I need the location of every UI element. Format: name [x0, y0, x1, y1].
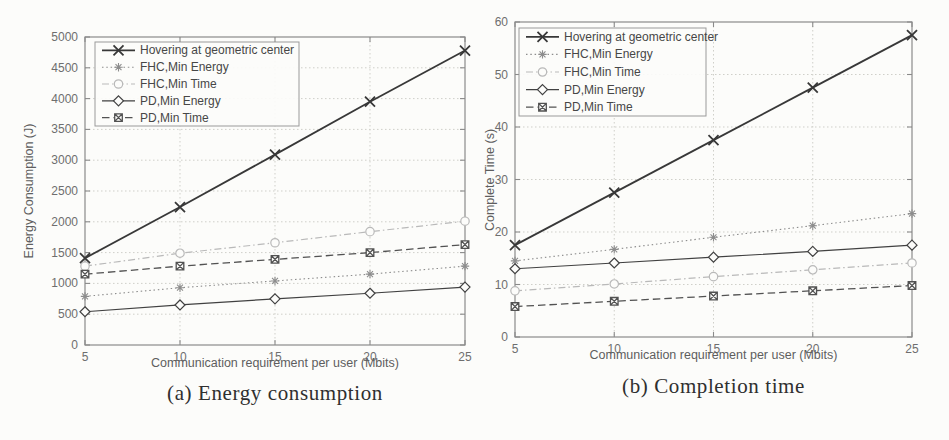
circle-marker-icon — [709, 272, 717, 280]
diamond-marker-icon — [808, 246, 818, 256]
square-x-marker-icon — [908, 282, 916, 290]
x-axis-label: Communication requirement per user (Mbit… — [515, 348, 912, 362]
asterisk-marker-icon — [81, 292, 89, 300]
y-tick-label: 0 — [501, 330, 508, 344]
y-tick-label: 1000 — [51, 276, 78, 290]
asterisk-marker-icon — [908, 209, 916, 217]
asterisk-marker-icon — [176, 284, 184, 292]
circle-marker-icon — [610, 280, 618, 288]
legend-label: FHC,Min Time — [140, 77, 217, 91]
circle-marker-icon — [461, 217, 469, 225]
square-x-marker-icon — [539, 103, 547, 111]
energy-consumption-panel: 5101520250500100015002000250030003500400… — [0, 0, 475, 440]
diamond-marker-icon — [270, 294, 280, 304]
y-tick-label: 500 — [58, 307, 78, 321]
asterisk-marker-icon — [461, 262, 469, 270]
y-tick-label: 3000 — [51, 153, 78, 167]
asterisk-marker-icon — [271, 277, 279, 285]
square-x-marker-icon — [271, 256, 279, 264]
y-tick-label: 3500 — [51, 122, 78, 136]
diamond-marker-icon — [907, 240, 917, 250]
x-marker-icon — [609, 188, 619, 198]
y-tick-label: 10 — [495, 278, 509, 292]
square-x-marker-icon — [809, 287, 817, 295]
legend-label: PD,Min Time — [140, 111, 209, 125]
legend-label: FHC,Min Energy — [140, 60, 229, 74]
series-3 — [510, 240, 917, 274]
square-x-marker-icon — [81, 270, 89, 278]
series-3 — [80, 282, 470, 317]
asterisk-marker-icon — [610, 245, 618, 253]
asterisk-marker-icon — [538, 50, 546, 58]
circle-marker-icon — [81, 262, 89, 270]
y-axis-label: Complete Time (s) — [483, 129, 497, 231]
square-x-marker-icon — [366, 249, 374, 257]
asterisk-marker-icon — [809, 222, 817, 230]
circle-marker-icon — [511, 287, 519, 295]
legend-label: FHC,Min Energy — [564, 47, 653, 61]
diamond-marker-icon — [80, 307, 90, 317]
circle-marker-icon — [366, 227, 374, 235]
legend-label: PD,Min Time — [564, 100, 633, 114]
y-tick-label: 60 — [495, 15, 509, 29]
circle-marker-icon — [809, 266, 817, 274]
y-tick-label: 2500 — [51, 184, 78, 198]
legend-label: Hovering at geometric center — [564, 30, 718, 44]
x-marker-icon — [175, 202, 185, 212]
energy-consumption-chart: 5101520250500100015002000250030003500400… — [0, 0, 475, 440]
y-tick-label: 4000 — [51, 92, 78, 106]
y-tick-label: 5000 — [51, 30, 78, 44]
diamond-marker-icon — [365, 288, 375, 298]
subfigure-caption-b: (b) Completion time — [515, 374, 912, 399]
x-marker-icon — [709, 135, 719, 145]
circle-marker-icon — [176, 249, 184, 257]
legend: Hovering at geometric centerFHC,Min Ener… — [95, 42, 299, 126]
y-tick-label: 4500 — [51, 61, 78, 75]
legend-label: FHC,Min Time — [564, 65, 641, 79]
series-2 — [511, 259, 916, 295]
square-x-marker-icon — [115, 114, 123, 122]
legend-label: PD,Min Energy — [564, 83, 645, 97]
circle-marker-icon — [538, 68, 546, 76]
y-tick-label: 2000 — [51, 215, 78, 229]
square-x-marker-icon — [176, 262, 184, 270]
square-x-marker-icon — [610, 298, 618, 306]
square-x-marker-icon — [461, 241, 469, 249]
subfigure-caption-a: (a) Energy consumption — [85, 381, 465, 406]
completion-time-panel: 5101520250102030405060Hovering at geomet… — [475, 0, 949, 440]
circle-marker-icon — [908, 259, 916, 267]
y-tick-label: 0 — [71, 338, 78, 352]
diamond-marker-icon — [175, 300, 185, 310]
diamond-marker-icon — [709, 252, 719, 262]
legend-label: Hovering at geometric center — [140, 43, 294, 57]
legend: Hovering at geometric centerFHC,Min Ener… — [519, 28, 718, 116]
y-axis-label: Energy Consumption (J) — [22, 124, 36, 259]
asterisk-marker-icon — [114, 63, 122, 71]
y-tick-label: 50 — [495, 68, 509, 82]
circle-marker-icon — [271, 239, 279, 247]
y-tick-label: 1500 — [51, 246, 78, 260]
x-axis-label: Communication requirement per user (Mbit… — [85, 356, 465, 370]
square-x-marker-icon — [710, 292, 718, 300]
asterisk-marker-icon — [709, 233, 717, 241]
diamond-marker-icon — [609, 258, 619, 268]
circle-marker-icon — [114, 80, 122, 88]
figure: 5101520250500100015002000250030003500400… — [0, 0, 949, 440]
square-x-marker-icon — [511, 303, 519, 311]
diamond-marker-icon — [510, 264, 520, 274]
legend-label: PD,Min Energy — [140, 94, 221, 108]
asterisk-marker-icon — [366, 270, 374, 278]
